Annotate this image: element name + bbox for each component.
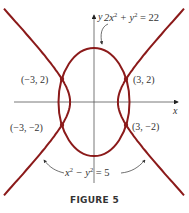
hyperbola-equation: x2 − y2 = 5 bbox=[64, 166, 110, 178]
x-axis-label: x bbox=[172, 105, 178, 116]
hyperbola-pointer-right bbox=[121, 160, 145, 173]
figure-caption: FIGURE 5 bbox=[0, 195, 189, 205]
label-neg3-neg2: (−3, −2) bbox=[10, 122, 43, 134]
point-3-2 bbox=[124, 77, 128, 81]
ellipse-pointer-arrow bbox=[101, 24, 108, 44]
label-neg3-2: (−3, 2) bbox=[21, 74, 48, 86]
hyperbola-pointer-left bbox=[44, 160, 64, 173]
y-axis-label: y bbox=[97, 11, 103, 22]
point-neg3-2 bbox=[60, 77, 64, 81]
point-neg3-neg2 bbox=[60, 123, 64, 127]
label-3-2: (3, 2) bbox=[133, 74, 155, 86]
figure-diagram: x y (−3, 2) (3, 2) (−3, −2) (3, −2) 2x2 … bbox=[0, 0, 189, 213]
label-3-neg2: (3, −2) bbox=[132, 121, 159, 133]
point-3-neg2 bbox=[124, 123, 128, 127]
ellipse-equation: 2x2 + y2 = 22 bbox=[104, 11, 159, 23]
